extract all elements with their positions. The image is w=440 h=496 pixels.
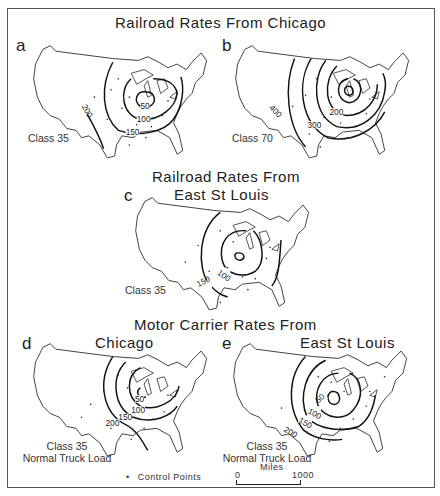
scale-max-label: 1000 [292, 470, 314, 480]
title-motor-carrier: Motor Carrier Rates From [134, 316, 317, 333]
map-a-caption: Class 35 [28, 132, 69, 144]
svg-text:150: 150 [126, 128, 140, 137]
svg-text:200: 200 [80, 103, 95, 120]
map-e-caption: Class 35 Normal Truck Load [212, 440, 322, 464]
svg-text:100: 100 [137, 115, 151, 124]
map-d-caption-load: Normal Truck Load [12, 452, 122, 464]
control-point-icon: • [126, 472, 130, 482]
scale-min-label: 0 [235, 470, 241, 480]
map-e-caption-class: Class 35 [212, 440, 322, 452]
contour-50 [328, 392, 340, 405]
contour-labels: 50 100 150 200 [282, 392, 327, 440]
map-c: 100 150 [126, 188, 326, 318]
svg-text:400: 400 [267, 103, 283, 119]
map-c-caption: Class 35 [125, 284, 166, 296]
legend-control-points: • Control Points [126, 472, 201, 482]
contour-150 [201, 212, 281, 297]
title-railroad-chicago: Railroad Rates From Chicago [115, 14, 326, 31]
svg-text:100: 100 [131, 406, 145, 415]
scale-title: Miles [260, 462, 284, 472]
svg-text:150: 150 [118, 413, 132, 422]
svg-text:300: 300 [307, 121, 321, 130]
contour-50 [235, 253, 244, 260]
map-a: 50 100 150 200 [22, 36, 222, 166]
contour-200 [87, 114, 104, 149]
map-b-caption: Class 70 [232, 132, 273, 144]
svg-text:200: 200 [105, 419, 119, 428]
control-points [185, 230, 271, 303]
svg-text:200: 200 [330, 108, 344, 117]
contour-labels: 200 300 400 [267, 103, 343, 129]
svg-text:50: 50 [135, 395, 145, 404]
map-d-caption: Class 35 Normal Truck Load [12, 440, 122, 464]
scale-bar [236, 480, 301, 485]
map-d-caption-class: Class 35 [12, 440, 122, 452]
svg-text:50: 50 [140, 102, 150, 111]
control-points-label: Control Points [138, 472, 202, 482]
contour-100 [124, 79, 178, 120]
title-railroad-eststlouis-1: Railroad Rates From [152, 168, 300, 185]
contour-labels: 100 150 [195, 268, 232, 289]
map-b: 200 300 400 [226, 36, 426, 166]
